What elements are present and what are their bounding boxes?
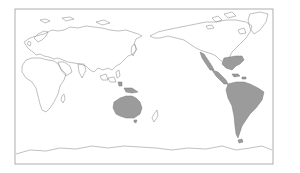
tierra-del-fuego-region <box>238 139 243 143</box>
indonesia-east-region <box>118 82 122 86</box>
map-canvas <box>0 0 300 173</box>
world-map <box>0 0 300 173</box>
